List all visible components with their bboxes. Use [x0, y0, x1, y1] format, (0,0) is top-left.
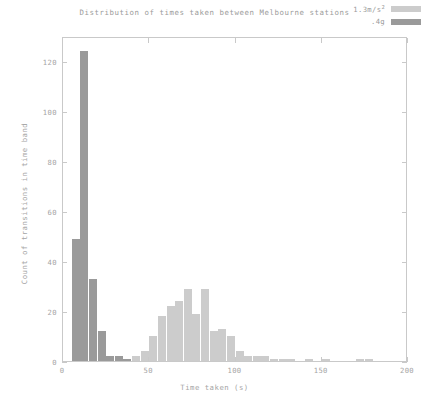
x-tick-mark — [407, 38, 408, 43]
chart-figure: Distribution of times taken between Melb… — [0, 0, 429, 408]
y-tick-mark — [402, 112, 407, 113]
y-tick-mark — [62, 212, 67, 213]
y-tick-mark — [402, 162, 407, 163]
y-tick-mark — [402, 262, 407, 263]
y-tick-mark — [402, 362, 407, 363]
y-tick-mark — [62, 312, 67, 313]
y-tick-label: 0 — [27, 358, 57, 367]
x-tick-label: 0 — [60, 366, 65, 375]
y-axis: Count of transitions in time band 020406… — [0, 0, 429, 408]
x-tick-mark — [321, 357, 322, 362]
x-tick-mark — [148, 357, 149, 362]
y-tick-label: 20 — [27, 308, 57, 317]
x-tick-label: 100 — [227, 366, 241, 375]
y-tick-mark — [402, 312, 407, 313]
y-tick-mark — [402, 212, 407, 213]
y-tick-mark — [62, 262, 67, 263]
x-tick-mark — [321, 38, 322, 43]
chart-legend: 1.3m/s2.4g — [353, 4, 421, 26]
y-tick-mark — [62, 112, 67, 113]
x-tick-label: 200 — [400, 366, 414, 375]
y-tick-label: 80 — [27, 158, 57, 167]
legend-color-swatch — [391, 19, 421, 25]
x-tick-mark — [62, 38, 63, 43]
y-tick-label: 100 — [27, 108, 57, 117]
x-axis-label: Time taken (s) — [0, 383, 429, 392]
legend-item: .4g — [371, 17, 421, 26]
legend-item-label: .4g — [371, 17, 385, 26]
y-tick-mark — [62, 62, 67, 63]
y-tick-label: 40 — [27, 258, 57, 267]
y-axis-label: Count of transitions in time band — [20, 94, 29, 314]
x-tick-mark — [235, 38, 236, 43]
y-tick-mark — [402, 62, 407, 63]
x-tick-mark — [235, 357, 236, 362]
x-tick-label: 50 — [144, 366, 153, 375]
legend-color-swatch — [391, 6, 421, 12]
legend-item: 1.3m/s2 — [353, 4, 421, 14]
x-tick-mark — [62, 357, 63, 362]
y-tick-label: 60 — [27, 208, 57, 217]
legend-item-label: 1.3m/s2 — [353, 4, 385, 14]
x-tick-label: 150 — [314, 366, 328, 375]
y-tick-mark — [62, 162, 67, 163]
x-tick-mark — [407, 357, 408, 362]
y-tick-label: 120 — [27, 58, 57, 67]
x-tick-mark — [148, 38, 149, 43]
y-tick-mark — [62, 362, 67, 363]
